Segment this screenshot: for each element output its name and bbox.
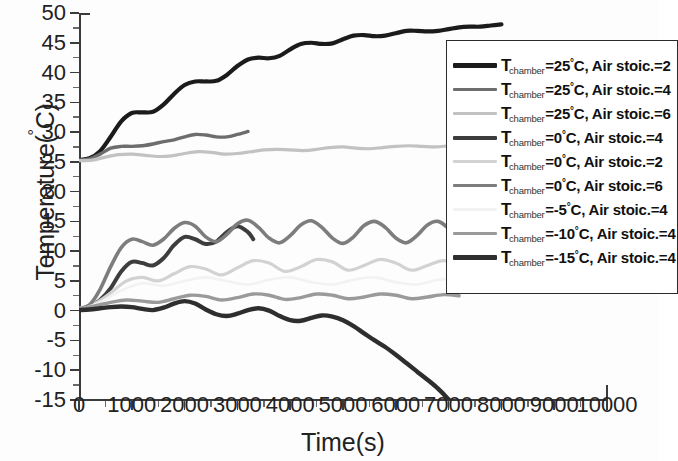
legend-item-6[interactable]: Tchamber=-5°C, Air stoic.=4 — [453, 199, 667, 220]
y-tick — [70, 221, 79, 223]
y-tick — [70, 280, 79, 282]
x-tick-minor — [580, 401, 582, 407]
legend-item-5[interactable]: Tchamber=0°C, Air stoic.=6 — [453, 175, 663, 196]
legend-item-2[interactable]: Tchamber=25°C, Air stoic.=6 — [453, 103, 671, 124]
legend-label: Tchamber=0°C, Air stoic.=2 — [501, 152, 663, 172]
legend-swatch — [453, 63, 497, 67]
legend-swatch — [453, 160, 497, 163]
y-tick — [70, 310, 79, 312]
legend-condition: =-15°C, Air stoic.=4 — [545, 249, 675, 266]
legend-condition: =-10°C, Air stoic.=4 — [545, 225, 675, 242]
legend-label: Tchamber=25°C, Air stoic.=6 — [501, 104, 671, 124]
legend-item-3[interactable]: Tchamber=0°C, Air stoic.=4 — [453, 127, 663, 148]
legend-condition: =0°C, Air stoic.=2 — [545, 153, 662, 170]
legend-label: Tchamber=0°C, Air stoic.=4 — [501, 128, 663, 148]
x-tick-minor — [474, 401, 476, 407]
legend-condition: =0°C, Air stoic.=4 — [545, 129, 662, 146]
legend-symbol: Tchamber — [501, 152, 511, 172]
legend-label: Tchamber=0°C, Air stoic.=6 — [501, 176, 663, 196]
degree-symbol-icon: ° — [567, 201, 571, 212]
legend-symbol-subscript: chamber — [509, 89, 545, 100]
x-tick-minor — [369, 401, 371, 407]
y-tick-label: 50 — [42, 0, 66, 26]
legend-symbol: Tchamber — [501, 176, 511, 196]
x-tick-minor — [422, 401, 424, 407]
y-tick-label: 45 — [42, 30, 66, 56]
series-line-6 — [79, 277, 459, 309]
legend-item-0[interactable]: Tchamber=25°C, Air stoic.=2 — [453, 55, 671, 76]
legend-symbol-subscript: chamber — [509, 233, 545, 244]
legend-symbol: Tchamber — [501, 80, 511, 100]
legend-swatch — [453, 208, 497, 211]
legend-swatch — [453, 136, 497, 140]
y-tick — [70, 191, 79, 193]
y-tick — [70, 72, 79, 74]
legend-symbol-subscript: chamber — [509, 257, 545, 268]
legend-label: Tchamber=-10°C, Air stoic.=4 — [501, 224, 676, 244]
y-tick — [70, 12, 79, 14]
legend-label: Tchamber=-5°C, Air stoic.=4 — [501, 200, 667, 220]
legend-label: Tchamber=25°C, Air stoic.=2 — [501, 56, 671, 76]
legend-swatch — [453, 88, 497, 91]
degree-symbol-icon: ° — [562, 129, 566, 140]
legend-item-4[interactable]: Tchamber=0°C, Air stoic.=2 — [453, 151, 663, 172]
legend-symbol: Tchamber — [501, 224, 511, 244]
y-tick-label: -10 — [34, 357, 66, 383]
y-tick — [70, 369, 79, 371]
degree-symbol-icon: ° — [570, 81, 574, 92]
y-tick-label: 40 — [42, 59, 66, 85]
degree-symbol-icon: ° — [562, 153, 566, 164]
legend-symbol-subscript: chamber — [509, 65, 545, 76]
y-tick — [70, 42, 79, 44]
y-tick-label: 30 — [42, 119, 66, 145]
x-tick-minor — [210, 401, 212, 407]
legend-condition: =25°C, Air stoic.=4 — [545, 81, 671, 98]
legend-symbol: Tchamber — [501, 200, 511, 220]
legend-symbol-subscript: chamber — [509, 161, 545, 172]
y-tick — [70, 161, 79, 163]
legend-swatch — [453, 255, 497, 259]
y-tick-label: -5 — [46, 327, 66, 353]
legend-symbol: Tchamber — [501, 104, 511, 124]
y-tick-label: 20 — [42, 178, 66, 204]
degree-symbol-icon: ° — [575, 225, 579, 236]
legend-symbol-subscript: chamber — [509, 185, 545, 196]
legend-label: Tchamber=-15°C, Air stoic.=4 — [501, 248, 676, 268]
legend-symbol-subscript: chamber — [509, 137, 545, 148]
x-axis-title: Time(s) — [79, 428, 607, 457]
y-tick — [70, 102, 79, 104]
x-tick-minor — [316, 401, 318, 407]
degree-symbol-icon: ° — [570, 57, 574, 68]
legend-swatch — [453, 232, 497, 235]
x-tick-minor — [263, 401, 265, 407]
degree-symbol-icon: ° — [562, 177, 566, 188]
y-tick — [70, 340, 79, 342]
legend-condition: =-5°C, Air stoic.=4 — [545, 201, 667, 218]
legend-swatch — [453, 184, 497, 188]
degree-symbol-icon: ° — [26, 129, 43, 135]
series-line-0 — [79, 24, 501, 160]
y-tick-label: 5 — [54, 268, 66, 294]
legend-condition: =25°C, Air stoic.=2 — [545, 57, 671, 74]
y-tick-label: 0 — [54, 297, 66, 323]
legend-symbol: Tchamber — [501, 248, 511, 268]
legend-item-7[interactable]: Tchamber=-10°C, Air stoic.=4 — [453, 223, 676, 244]
legend-item-8[interactable]: Tchamber=-15°C, Air stoic.=4 — [453, 247, 676, 268]
legend-condition: =25°C, Air stoic.=6 — [545, 105, 671, 122]
y-tick-label: 35 — [42, 89, 66, 115]
x-tick-minor — [105, 401, 107, 407]
legend-swatch — [453, 112, 497, 115]
legend-symbol-subscript: chamber — [509, 209, 545, 220]
legend-symbol-subscript: chamber — [509, 113, 545, 124]
degree-symbol-icon: ° — [575, 249, 579, 260]
legend-label: Tchamber=25°C, Air stoic.=4 — [501, 80, 671, 100]
x-tick-minor — [527, 401, 529, 407]
legend-box: Tchamber=25°C, Air stoic.=2Tchamber=25°C… — [446, 40, 678, 294]
legend-item-1[interactable]: Tchamber=25°C, Air stoic.=4 — [453, 79, 671, 100]
y-tick-label: 25 — [42, 149, 66, 175]
legend-symbol: Tchamber — [501, 56, 511, 76]
y-tick-label: 15 — [42, 208, 66, 234]
degree-symbol-icon: ° — [570, 105, 574, 116]
x-tick-minor — [158, 401, 160, 407]
